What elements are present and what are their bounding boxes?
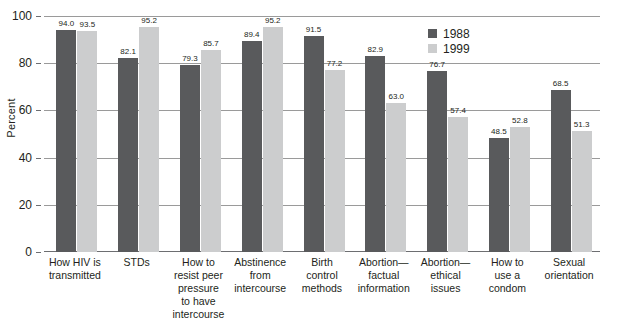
x-axis-label-line: orientation: [534, 269, 604, 282]
bar: 95.2: [139, 27, 159, 252]
bar: 77.2: [325, 70, 345, 252]
x-axis-label-line: How HIV is: [40, 256, 110, 269]
bar-value-label: 79.3: [182, 55, 198, 63]
bar: 76.7: [427, 71, 447, 252]
x-axis-label-line: resist peer: [164, 269, 234, 282]
x-axis-label: Sexualorientation: [534, 256, 604, 282]
bar: 94.0: [56, 30, 76, 252]
x-axis-label-line: issues: [411, 282, 481, 295]
bar: 48.5: [489, 138, 509, 252]
bar: 68.5: [551, 90, 571, 252]
legend-label: 1999: [443, 43, 470, 55]
bar-chart: Percent 020406080100 94.093.582.195.279.…: [0, 0, 618, 327]
x-axis-label-line: How to: [472, 256, 542, 269]
x-axis-label-line: Abstinence: [225, 256, 295, 269]
x-axis-label-line: to have: [164, 295, 234, 308]
x-axis-label-line: Sexual: [534, 256, 604, 269]
y-axis-title: Percent: [5, 83, 17, 153]
x-axis-label: Abstinencefromintercourse: [225, 256, 295, 295]
bar: 57.4: [448, 117, 468, 252]
bar: 82.9: [365, 56, 385, 252]
legend-label: 1988: [443, 28, 470, 40]
bar: 95.2: [263, 27, 283, 252]
x-axis-label-line: intercourse: [164, 308, 234, 321]
y-tick-mark: [36, 110, 41, 111]
bar-group: 68.551.3: [551, 16, 592, 252]
bar-value-label: 48.5: [491, 128, 507, 136]
bar-group: 91.577.2: [304, 16, 345, 252]
x-axis-label-line: pressure: [164, 282, 234, 295]
y-tick-mark: [36, 16, 41, 17]
x-axis-label-line: Birth: [287, 256, 357, 269]
bar: 82.1: [118, 58, 138, 252]
x-axis-label-line: information: [349, 282, 419, 295]
bar-value-label: 85.7: [203, 40, 219, 48]
legend-item: 1988: [428, 27, 470, 40]
bar-value-label: 89.4: [244, 31, 260, 39]
x-axis-label-line: transmitted: [40, 269, 110, 282]
legend-swatch: [428, 44, 437, 53]
bar: 93.5: [77, 31, 97, 252]
x-axis-label-line: Abortion—: [349, 256, 419, 269]
plot-area: 94.093.582.195.279.385.789.495.291.577.2…: [44, 16, 600, 252]
y-tick-label: 0: [2, 246, 32, 258]
x-axis-label-line: intercourse: [225, 282, 295, 295]
bar-value-label: 63.0: [388, 93, 404, 101]
bar-value-label: 94.0: [59, 20, 75, 28]
y-tick-label: 20: [2, 199, 32, 211]
legend-swatch: [428, 29, 437, 38]
bar: 79.3: [180, 65, 200, 252]
bar-value-label: 95.2: [141, 17, 157, 25]
bar: 85.7: [201, 50, 221, 252]
bar-value-label: 77.2: [327, 60, 343, 68]
bar: 52.8: [510, 127, 530, 252]
bar-value-label: 51.3: [574, 121, 590, 129]
x-axis-label-line: Abortion—: [411, 256, 481, 269]
bar: 51.3: [572, 131, 592, 252]
bar-group: 79.385.7: [180, 16, 221, 252]
x-axis-label-line: STDs: [102, 256, 172, 269]
x-axis-label-line: ethical: [411, 269, 481, 282]
y-tick-label: 80: [2, 57, 32, 69]
bar-value-label: 76.7: [429, 61, 445, 69]
bar-group: 82.195.2: [118, 16, 159, 252]
y-tick-mark: [36, 63, 41, 64]
x-axis-label: How toresist peerpressureto haveintercou…: [164, 256, 234, 321]
x-axis-label-line: from: [225, 269, 295, 282]
x-axis-label: How touse acondom: [472, 256, 542, 295]
bar-value-label: 52.8: [512, 117, 528, 125]
bar-value-label: 93.5: [80, 21, 96, 29]
bar-group: 94.093.5: [56, 16, 97, 252]
bar-group: 89.495.2: [242, 16, 283, 252]
y-tick-mark: [36, 205, 41, 206]
legend: 19881999: [428, 27, 470, 57]
x-axis-label-line: control: [287, 269, 357, 282]
legend-item: 1999: [428, 42, 470, 55]
y-tick-label: 100: [2, 10, 32, 22]
x-axis-label: Abortion—ethicalissues: [411, 256, 481, 295]
y-tick-mark: [36, 158, 41, 159]
bar: 91.5: [304, 36, 324, 252]
bar-value-label: 91.5: [306, 26, 322, 34]
bar: 63.0: [386, 103, 406, 252]
bar-value-label: 57.4: [450, 107, 466, 115]
x-axis-label-line: condom: [472, 282, 542, 295]
y-tick-label: 40: [2, 152, 32, 164]
bar: 89.4: [242, 41, 262, 252]
x-axis-label-line: methods: [287, 282, 357, 295]
x-axis-label-line: factual: [349, 269, 419, 282]
x-axis-label: How HIV istransmitted: [40, 256, 110, 282]
x-axis-label: Abortion—factualinformation: [349, 256, 419, 295]
x-axis-label-line: How to: [164, 256, 234, 269]
x-axis-label-line: use a: [472, 269, 542, 282]
bar-group: 82.963.0: [365, 16, 406, 252]
bar-value-label: 82.1: [120, 48, 136, 56]
bar-group: 48.552.8: [489, 16, 530, 252]
y-tick-label: 60: [2, 104, 32, 116]
y-tick-mark: [36, 252, 41, 253]
bar-value-label: 82.9: [367, 46, 383, 54]
bar-value-label: 68.5: [553, 80, 569, 88]
x-axis-label: STDs: [102, 256, 172, 269]
x-axis-label: Birthcontrolmethods: [287, 256, 357, 295]
bar-value-label: 95.2: [265, 17, 281, 25]
